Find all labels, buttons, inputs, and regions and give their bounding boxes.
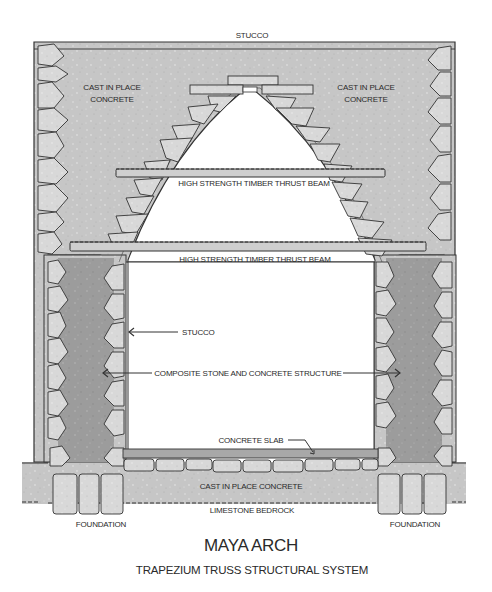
label-composite: COMPOSITE STONE AND CONCRETE STRUCTURE bbox=[154, 369, 341, 378]
label-cast-right-1: CAST IN PLACE bbox=[337, 83, 394, 92]
label-stucco-wall: STUCCO bbox=[182, 328, 215, 337]
label-cast-floor: CAST IN PLACE CONCRETE bbox=[200, 482, 303, 491]
foundation-left bbox=[53, 474, 123, 514]
label-beam-upper: HIGH STRENGTH TIMBER THRUST BEAM bbox=[178, 179, 330, 188]
maya-arch-diagram: STUCCO CAST IN PLACE CONCRETE CAST IN PL… bbox=[0, 0, 492, 592]
label-beam-lower: HIGH STRENGTH TIMBER THRUST BEAM bbox=[179, 255, 331, 264]
label-foundation-right: FOUNDATION bbox=[390, 520, 441, 529]
diagram-subtitle: TRAPEZIUM TRUSS STRUCTURAL SYSTEM bbox=[136, 564, 368, 576]
diagram-title: MAYA ARCH bbox=[204, 536, 298, 555]
label-cast-left-2: CONCRETE bbox=[90, 95, 133, 104]
label-concrete-slab: CONCRETE SLAB bbox=[219, 436, 284, 445]
label-stucco-top: STUCCO bbox=[236, 31, 269, 40]
timber-beam-upper bbox=[116, 169, 385, 177]
label-foundation-left: FOUNDATION bbox=[76, 520, 127, 529]
concrete-slab bbox=[123, 449, 378, 472]
label-bedrock: LIMESTONE BEDROCK bbox=[210, 506, 295, 515]
label-cast-left-1: CAST IN PLACE bbox=[83, 83, 140, 92]
timber-beam-lower bbox=[70, 242, 426, 251]
label-cast-right-2: CONCRETE bbox=[344, 95, 387, 104]
foundation-right bbox=[378, 474, 446, 514]
